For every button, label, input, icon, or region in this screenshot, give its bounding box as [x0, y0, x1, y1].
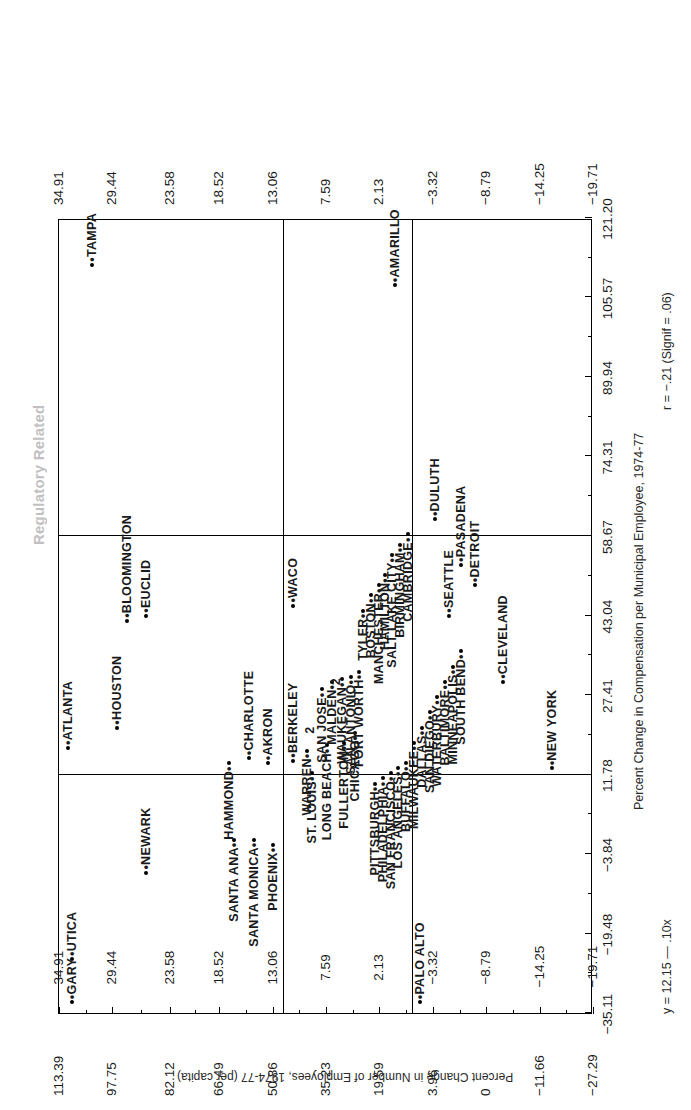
bottom-y-tick-label: 29.44: [104, 948, 119, 988]
bottom-y-tick-label: 34.91: [51, 948, 66, 988]
x-tick: [585, 535, 592, 536]
data-point: [66, 746, 70, 750]
city-label: •DULUTH: [428, 458, 442, 516]
data-point: [291, 604, 295, 608]
x-axis-caption: Percent Change in Compensation per Munic…: [632, 433, 646, 810]
x-tick: [585, 774, 592, 775]
data-point: [266, 761, 270, 765]
bottom-y-tick-label: 2.13: [371, 948, 386, 988]
data-point: [144, 871, 148, 875]
x-tick-minor: [588, 575, 592, 576]
data-point: [357, 670, 361, 674]
y-tick-label-right: 18.52: [211, 171, 226, 205]
city-label: •TAMPA: [85, 213, 99, 262]
bottom-y-tick-label: −3.32: [424, 948, 439, 988]
x-tick-label: −3.84: [600, 838, 615, 872]
data-point: [291, 759, 295, 763]
x-tick-label: 58.67: [600, 520, 615, 554]
city-label: •DETROIT: [468, 521, 482, 583]
bottom-y-tick-label: 23.58: [161, 948, 176, 988]
city-label: SOUTH BEND•: [454, 654, 468, 744]
data-point: [252, 838, 256, 842]
x-tick-label: 43.04: [600, 600, 615, 634]
y-tick-label-right: −3.32: [424, 171, 439, 205]
y-tick-label-right: −14.25: [531, 163, 546, 205]
data-point: [305, 749, 309, 753]
data-point: [473, 583, 477, 587]
data-point: [247, 756, 251, 760]
y-tick-label-right: 29.44: [104, 171, 119, 205]
figure-page: Regulatory Related •GARY•UTICA•PALO ALTO…: [0, 0, 691, 1110]
bottom-y-tick-label: −19.71: [585, 948, 600, 988]
city-label: •CHARLOTTE: [242, 671, 256, 755]
data-point: [501, 680, 505, 684]
x-tick-minor: [588, 495, 592, 496]
correlation-annotation: r = −.21 (Signif = .06): [660, 292, 674, 410]
city-label: •PASADENA: [454, 486, 468, 562]
data-point: [393, 283, 397, 287]
horizontal-reference-line-1: [283, 220, 284, 1013]
city-label: •EUCLID: [139, 560, 153, 613]
x-tick-minor: [588, 734, 592, 735]
x-tick: [585, 217, 592, 218]
data-point: [227, 761, 231, 765]
x-tick: [585, 297, 592, 298]
city-label: WARREN•: [300, 754, 314, 816]
city-label: •AKRON: [261, 708, 275, 760]
bottom-y-tick-label: 7.59: [318, 948, 333, 988]
x-tick-minor: [588, 813, 592, 814]
overplot-count-marker: 2: [303, 727, 317, 734]
city-label: HAMMOND•: [222, 766, 236, 839]
x-tick-label: 11.78: [600, 759, 615, 792]
city-label: •WACO: [286, 558, 300, 603]
x-tick-label: 27.41: [600, 679, 615, 713]
y-tick-label-right: 2.13: [371, 179, 386, 205]
data-point: [271, 843, 275, 847]
x-tick-minor: [588, 893, 592, 894]
data-point: [125, 619, 129, 623]
x-tick-label: 74.31: [600, 441, 615, 475]
city-label: •CLEVELAND: [496, 595, 510, 679]
x-tick: [585, 615, 592, 616]
overplot-count-marker: 2: [329, 678, 343, 685]
city-label: FORT WORTH•: [352, 675, 366, 767]
city-label: •BLOOMINGTON: [120, 515, 134, 618]
x-tick-minor: [588, 416, 592, 417]
data-point: [433, 517, 437, 521]
plot-area: •GARY•UTICA•PALO ALTO•NEWARKSANTA ANA•SA…: [58, 219, 592, 1014]
x-tick: [585, 694, 592, 695]
x-tick: [585, 456, 592, 457]
bottom-y-tick-label: 13.06: [264, 948, 279, 988]
x-tick-label: 89.94: [600, 361, 615, 395]
bottom-y-tick-label: −8.79: [478, 948, 493, 988]
data-point: [90, 263, 94, 267]
city-label: CAMBRIDGE•: [401, 537, 415, 621]
x-tick: [585, 853, 592, 854]
data-point: [447, 614, 451, 618]
y-tick-label-right: 13.06: [264, 171, 279, 205]
x-tick-label: 121.20: [600, 198, 615, 239]
data-point: [320, 687, 324, 691]
y-tick-label-right: −19.71: [585, 163, 600, 205]
bottom-y-tick-label: −14.25: [531, 948, 546, 988]
data-point: [459, 563, 463, 567]
y-tick-label-right: 7.59: [318, 179, 333, 205]
y-tick-label-right: −8.79: [478, 171, 493, 205]
data-point: [459, 649, 463, 653]
x-tick-minor: [588, 654, 592, 655]
data-point: [144, 614, 148, 618]
y-tick-label-right: 23.58: [161, 171, 176, 205]
city-label: •NEW YORK: [545, 690, 559, 766]
city-label: •NEWARK: [139, 808, 153, 870]
x-tick: [585, 376, 592, 377]
x-tick-minor: [588, 336, 592, 337]
city-label: •ATLANTA: [61, 681, 75, 745]
city-label: •AMARILLO: [388, 209, 402, 282]
city-label: PHOENIX•: [266, 848, 280, 911]
data-point: [406, 532, 410, 536]
x-tick-minor: [588, 257, 592, 258]
data-point: [115, 726, 119, 730]
x-tick-label: 105.57: [600, 278, 615, 319]
bottom-y-tick-label: 18.52: [211, 948, 226, 988]
y-tick-label-right: 34.91: [51, 171, 66, 205]
